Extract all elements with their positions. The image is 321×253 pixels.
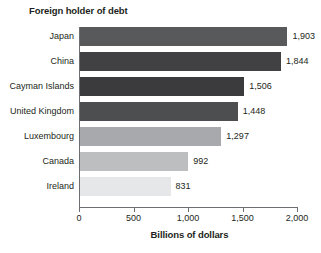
bar-value-label: 1,903: [292, 27, 315, 46]
bar-value-label: 1,844: [286, 52, 309, 71]
bar-row: Japan1,903: [0, 27, 321, 46]
x-axis-tick-label: 1,500: [231, 213, 254, 223]
x-axis-tick: [243, 208, 244, 212]
category-label: Canada: [42, 152, 74, 171]
bar-row: China1,844: [0, 52, 321, 71]
x-axis-title-text: Billions of dollars: [151, 229, 229, 240]
bar: [80, 127, 221, 146]
bar: [80, 52, 281, 71]
bar-row: United Kingdom1,448: [0, 102, 321, 121]
category-label: Ireland: [46, 177, 74, 196]
category-label: Cayman Islands: [9, 77, 74, 96]
bar-value-label: 1,448: [243, 102, 266, 121]
bar-row: Luxembourg1,297: [0, 127, 321, 146]
bar: [80, 177, 171, 196]
category-label: Luxembourg: [24, 127, 74, 146]
x-axis-tick-label: 2,000: [286, 213, 309, 223]
bar: [80, 102, 238, 121]
bar: [80, 77, 244, 96]
bar-chart: Foreign holder of debt Japan1,903China1,…: [0, 0, 321, 253]
bar-row: Cayman Islands1,506: [0, 77, 321, 96]
x-axis-title: Billions of dollars: [0, 229, 321, 240]
bar: [80, 152, 188, 171]
category-label: Japan: [49, 27, 74, 46]
chart-title: Foreign holder of debt: [29, 5, 128, 16]
x-axis-tick: [79, 208, 80, 212]
bar: [80, 27, 287, 46]
bar-row: Canada992: [0, 152, 321, 171]
x-axis-tick: [297, 208, 298, 212]
category-label: China: [50, 52, 74, 71]
bar-value-label: 992: [193, 152, 208, 171]
x-axis-tick: [134, 208, 135, 212]
plot-area: Japan1,903China1,844Cayman Islands1,506U…: [0, 27, 321, 207]
x-axis-tick: [188, 208, 189, 212]
x-axis-tick-label: 1,000: [177, 213, 200, 223]
bar-row: Ireland831: [0, 177, 321, 196]
bar-value-label: 1,297: [226, 127, 249, 146]
bar-value-label: 831: [176, 177, 191, 196]
category-label: United Kingdom: [10, 102, 74, 121]
x-axis-tick-label: 0: [76, 213, 81, 223]
x-axis-tick-label: 500: [126, 213, 141, 223]
bar-value-label: 1,506: [249, 77, 272, 96]
